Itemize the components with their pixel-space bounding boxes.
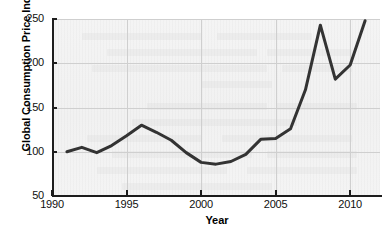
chart-figure: 5010015020025019901995200020052010 Globa… (0, 0, 389, 237)
x-axis-title: Year (52, 214, 382, 226)
y-axis-title: Global Consumption Price Index (20, 0, 32, 158)
series-polyline (67, 21, 365, 164)
series-line-chart (0, 0, 389, 237)
